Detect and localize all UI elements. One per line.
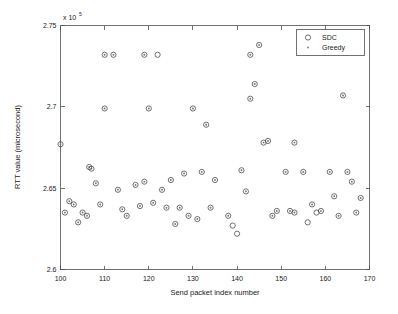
data-point-greedy	[196, 218, 198, 220]
scatter-plot: 100110120130140150160170 2.62.652.72.75 …	[0, 0, 398, 314]
data-point-greedy	[86, 215, 88, 217]
axes-box	[61, 26, 370, 270]
data-point-greedy	[174, 223, 176, 225]
data-point-greedy	[294, 212, 296, 214]
x-tick-label: 140	[231, 275, 243, 282]
x-tick-label: 170	[364, 275, 376, 282]
data-point-greedy	[311, 203, 313, 205]
data-point-greedy	[183, 173, 185, 175]
data-point-greedy	[117, 189, 119, 191]
data-point-greedy	[64, 212, 66, 214]
data-point-greedy	[126, 215, 128, 217]
x-axis-ticks	[61, 26, 370, 270]
data-point-greedy	[263, 142, 265, 144]
data-point-sdc	[230, 223, 235, 228]
legend-label-sdc: SDC	[322, 34, 337, 41]
data-point-greedy	[210, 207, 212, 209]
data-point-greedy	[201, 171, 203, 173]
legend-label-greedy: Greedy	[322, 44, 345, 52]
data-point-greedy	[170, 179, 172, 181]
legend[interactable]: SDC Greedy	[297, 30, 365, 56]
data-point-greedy	[148, 108, 150, 110]
data-point-greedy	[285, 171, 287, 173]
x-tick-label: 100	[55, 275, 67, 282]
x-tick-label: 130	[187, 275, 199, 282]
data-point-greedy	[329, 171, 331, 173]
data-point-greedy	[179, 207, 181, 209]
data-point-greedy	[104, 54, 106, 56]
data-point-greedy	[192, 108, 194, 110]
data-point-greedy	[139, 205, 141, 207]
y-axis-ticks	[61, 26, 370, 270]
plot-frame	[61, 26, 370, 270]
data-point-sdc	[234, 231, 239, 236]
data-point-greedy	[95, 182, 97, 184]
data-point-greedy	[346, 171, 348, 173]
data-point-greedy	[267, 140, 269, 142]
data-point-sdc	[155, 52, 160, 57]
data-point-greedy	[271, 215, 273, 217]
data-point-greedy	[333, 195, 335, 197]
data-point-greedy	[214, 179, 216, 181]
data-point-greedy	[121, 208, 123, 210]
data-point-greedy	[143, 54, 145, 56]
data-point-greedy	[77, 221, 79, 223]
data-point-greedy	[60, 143, 62, 145]
data-point-greedy	[82, 212, 84, 214]
y-axis-exponent-power: 5	[79, 11, 82, 17]
x-tick-label: 160	[320, 275, 332, 282]
y-tick-label: 2.7	[47, 103, 57, 110]
data-point-greedy	[360, 197, 362, 199]
data-point-greedy	[258, 44, 260, 46]
data-point-greedy	[355, 212, 357, 214]
data-point-greedy	[241, 169, 243, 171]
x-axis-tick-labels: 100110120130140150160170	[55, 275, 376, 282]
data-point-greedy	[73, 203, 75, 205]
y-tick-label: 2.75	[43, 22, 57, 29]
data-point-greedy	[113, 54, 115, 56]
data-point-greedy	[227, 215, 229, 217]
x-tick-label: 120	[143, 275, 155, 282]
y-axis-exponent: x 10 5	[63, 11, 82, 21]
data-point-greedy	[99, 203, 101, 205]
data-point-greedy	[165, 207, 167, 209]
x-axis-label: Send packet index number	[170, 288, 260, 297]
data-point-greedy	[289, 210, 291, 212]
legend-marker-greedy	[307, 47, 309, 49]
x-tick-label: 110	[99, 275, 110, 282]
data-point-greedy	[188, 215, 190, 217]
series-greedy-points	[60, 44, 362, 225]
data-point-greedy	[302, 171, 304, 173]
data-point-greedy	[161, 189, 163, 191]
y-axis-label: RTT value (microsecond)	[13, 105, 22, 189]
data-point-greedy	[205, 124, 207, 126]
data-point-greedy	[152, 202, 154, 204]
data-point-greedy	[249, 98, 251, 100]
data-point-greedy	[320, 210, 322, 212]
data-point-sdc	[305, 220, 310, 225]
y-axis-exponent-mantissa: x 10	[63, 14, 76, 21]
data-point-greedy	[254, 83, 256, 85]
data-point-greedy	[245, 190, 247, 192]
data-point-greedy	[294, 142, 296, 144]
data-point-greedy	[276, 210, 278, 212]
data-point-greedy	[68, 200, 70, 202]
figure-canvas: 100110120130140150160170 2.62.652.72.75 …	[0, 0, 398, 314]
data-point-greedy	[351, 181, 353, 183]
x-tick-label: 150	[275, 275, 287, 282]
data-point-greedy	[249, 54, 251, 56]
data-point-greedy	[143, 181, 145, 183]
data-point-greedy	[342, 95, 344, 97]
data-point-greedy	[135, 184, 137, 186]
data-point-greedy	[338, 215, 340, 217]
y-tick-label: 2.6	[47, 266, 57, 273]
data-point-greedy	[104, 108, 106, 110]
y-axis-tick-labels: 2.62.652.72.75	[43, 22, 57, 273]
y-tick-label: 2.65	[43, 185, 57, 192]
